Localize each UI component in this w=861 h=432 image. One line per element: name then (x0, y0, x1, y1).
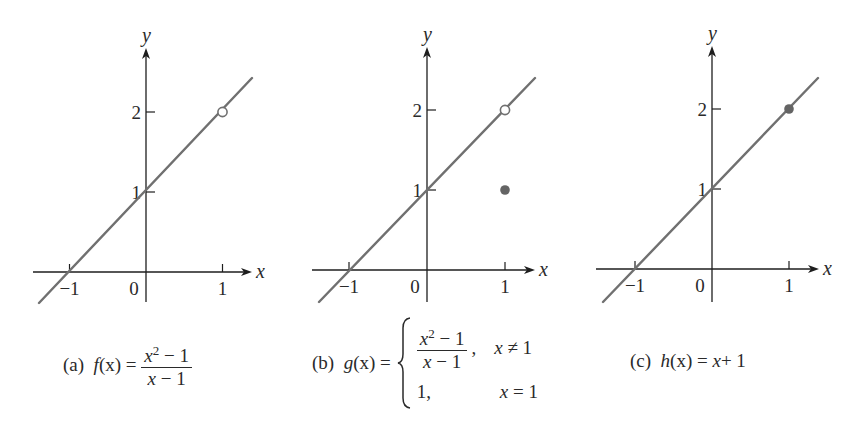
filled-point-icon (500, 185, 510, 195)
y-axis-label: y (706, 22, 717, 45)
y-axis-label: y (421, 23, 432, 46)
filled-point-icon (784, 104, 794, 114)
caption-c: (c) h(x) = x + 1 (630, 350, 746, 372)
graph-a: xy−11120 (33, 24, 265, 303)
caption-b-cases: x2 − 1 x − 1 , x ≠ 1 1, x = 1 (417, 323, 538, 403)
condition-variable: x (494, 337, 502, 358)
caption-a: (a) f(x) = x2 − 1 x − 1 (63, 340, 192, 390)
caption-c-argument: (x) (670, 350, 692, 372)
x-tick-label: −1 (59, 278, 79, 299)
caption-c-rhs-rest: + 1 (721, 350, 746, 372)
caption-b-case-1: x2 − 1 x − 1 , x ≠ 1 (417, 323, 538, 373)
caption-b-equals: = (380, 352, 391, 374)
origin-label: 0 (410, 276, 420, 297)
caption-a-fraction: x2 − 1 x − 1 (141, 340, 192, 390)
caption-b-denominator: x − 1 (417, 351, 468, 373)
origin-label: 0 (129, 278, 139, 299)
case-2-condition: x = 1 (500, 381, 538, 403)
numerator-variable: x (420, 328, 428, 349)
caption-c-function-name: h (661, 350, 671, 372)
open-point-icon (218, 107, 227, 116)
x-axis-label: x (255, 260, 265, 282)
x-tick-label: 1 (500, 276, 510, 297)
graph-c: xy−11120 (596, 22, 832, 302)
caption-b-case-2: 1, x = 1 (417, 381, 538, 403)
origin-label: 0 (695, 275, 705, 296)
x-tick-label: 1 (784, 275, 794, 296)
x-tick-label: 1 (218, 278, 228, 299)
y-tick-label: 2 (132, 102, 142, 123)
case-1-separator: , (471, 337, 476, 359)
graph-b: xy−11120 (312, 23, 548, 302)
x-tick-label: −1 (625, 275, 645, 296)
caption-a-equals: = (126, 354, 137, 376)
condition-rest: ≠ 1 (503, 337, 532, 358)
numerator-variable: x (144, 345, 152, 366)
caption-a-denominator: x − 1 (141, 368, 192, 390)
case-2-value: 1, (417, 381, 500, 403)
case-1-condition: x ≠ 1 (494, 337, 532, 359)
condition-variable: x (500, 381, 508, 402)
caption-c-label: (c) (630, 350, 651, 372)
caption-b-fraction: x2 − 1 x − 1 (417, 323, 468, 373)
caption-b-function-name: g (344, 352, 354, 374)
denominator-rest: − 1 (431, 351, 461, 372)
caption-b-label: (b) (312, 352, 334, 374)
y-tick-label: 2 (698, 99, 708, 120)
numerator-rest: − 1 (435, 328, 465, 349)
caption-c-rhs-variable: x (712, 350, 720, 372)
denominator-rest: − 1 (156, 368, 186, 389)
y-tick-label: 2 (413, 100, 423, 121)
x-axis-label: x (822, 257, 832, 279)
caption-b-argument: (x) (353, 352, 375, 374)
condition-rest: = 1 (508, 381, 538, 402)
left-brace-icon (397, 316, 413, 410)
caption-a-numerator: x2 − 1 (141, 340, 192, 368)
caption-b: (b) g(x) = x2 − 1 x − 1 , x ≠ 1 1, x = 1 (312, 316, 538, 410)
y-axis-label: y (140, 24, 151, 47)
denominator-variable: x (148, 368, 156, 389)
caption-b-numerator: x2 − 1 (417, 323, 468, 351)
open-point-icon (500, 105, 509, 114)
numerator-rest: − 1 (159, 345, 189, 366)
caption-c-equals: = (697, 350, 708, 372)
caption-a-argument: (x) (99, 354, 121, 376)
caption-a-label: (a) (63, 354, 84, 376)
x-axis-label: x (538, 258, 548, 280)
